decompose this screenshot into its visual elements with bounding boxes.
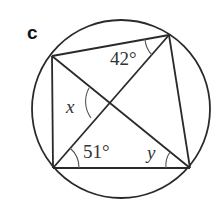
angle-arc-y: [166, 152, 170, 168]
angle-label-x: x: [65, 96, 75, 117]
part-label: c: [27, 22, 38, 43]
side-left: [52, 56, 53, 168]
angle-label-42: 42°: [110, 48, 137, 69]
angle-arc-51: [70, 148, 79, 168]
angle-label-y: y: [145, 142, 156, 163]
cyclic-quadrilateral-diagram: c 42° x 51° y: [0, 0, 218, 205]
circumscribed-circle: [32, 20, 210, 198]
side-right: [169, 35, 190, 168]
angle-arc-42: [145, 39, 152, 55]
angle-label-51: 51°: [83, 141, 110, 162]
angle-arc-x: [86, 88, 91, 118]
